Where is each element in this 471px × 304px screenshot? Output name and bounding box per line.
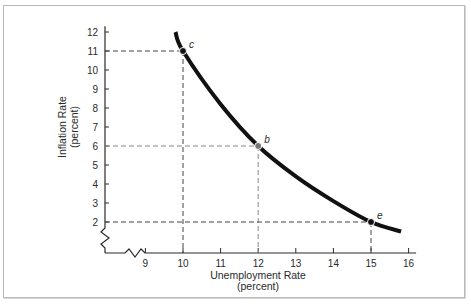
y-axis-title: Inflation Rate — [56, 96, 68, 158]
point-b — [255, 143, 262, 150]
x-tick-label: 10 — [177, 258, 189, 269]
y-tick-label: 11 — [88, 46, 99, 57]
point-label-c: c — [189, 39, 194, 50]
y-tick-label: 10 — [87, 65, 99, 76]
guide-lines — [105, 51, 371, 253]
x-tick-label: 16 — [403, 258, 415, 269]
x-tick-label: 14 — [328, 258, 340, 269]
x-axis-subtitle: (percent) — [237, 280, 279, 292]
y-tick-label: 2 — [92, 217, 98, 228]
y-tick-label: 4 — [92, 179, 98, 190]
phillips-curve-chart: 23456789101112910111213141516 cbe Unempl… — [0, 0, 471, 304]
y-tick-label: 8 — [92, 103, 98, 114]
y-tick-label: 12 — [87, 27, 99, 38]
x-tick-label: 12 — [253, 258, 265, 269]
y-tick-label: 6 — [92, 141, 98, 152]
phillips-curve-line — [175, 32, 401, 232]
y-tick-label: 9 — [92, 84, 98, 95]
points-group: cbe — [180, 39, 384, 226]
axes: 23456789101112910111213141516 — [87, 26, 416, 269]
point-label-b: b — [264, 134, 270, 145]
y-axis-subtitle: (percent) — [68, 106, 80, 148]
x-axis-line — [105, 249, 416, 257]
x-tick-label: 15 — [365, 258, 377, 269]
x-tick-label: 9 — [143, 258, 149, 269]
point-c — [180, 48, 187, 55]
y-axis-line — [101, 26, 109, 253]
y-tick-label: 7 — [92, 122, 98, 133]
y-tick-label: 5 — [92, 160, 98, 171]
point-label-e: e — [377, 210, 383, 221]
point-e — [368, 219, 375, 226]
curve-group — [175, 32, 401, 232]
y-tick-label: 3 — [92, 198, 98, 209]
x-tick-label: 13 — [290, 258, 302, 269]
x-tick-label: 11 — [215, 258, 226, 269]
